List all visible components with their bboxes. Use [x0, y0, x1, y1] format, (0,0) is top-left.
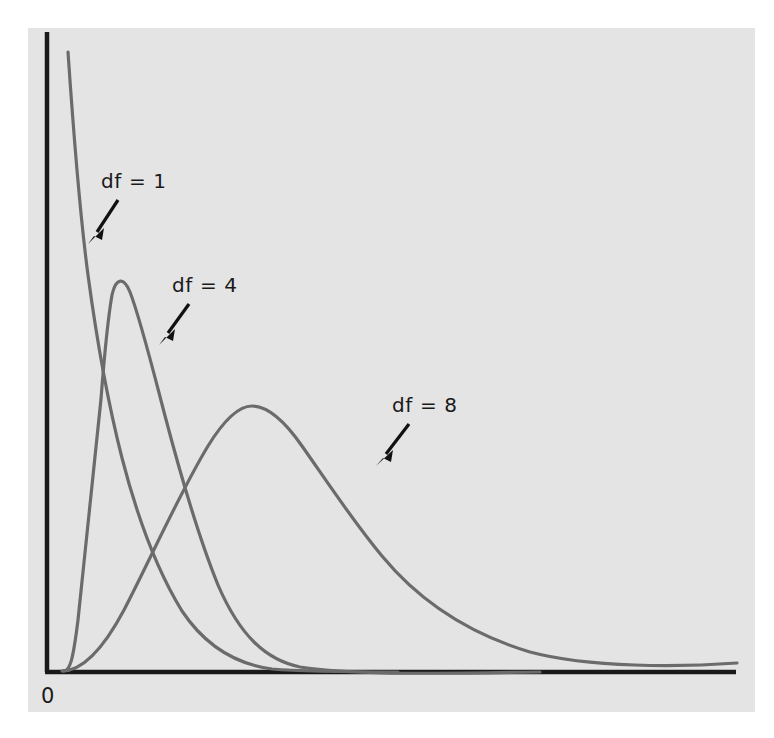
- annotation-df-1-arrow-head: [88, 228, 104, 244]
- annotation-df-1-arrow-shaft: [97, 200, 118, 232]
- annotation-df-4-arrow-shaft: [168, 304, 189, 333]
- annotation-df-1: df = 1: [88, 169, 167, 244]
- annotation-df-8-arrow-shaft: [386, 424, 409, 454]
- curve-df-4: [63, 281, 540, 673]
- annotation-df-8: df = 8: [376, 393, 458, 466]
- annotation-df-8-label: df = 8: [392, 393, 458, 417]
- curve-df-1: [68, 52, 398, 672]
- chi-square-distribution-chart: 0 df = 1 df = 4 df = 8: [0, 0, 774, 738]
- annotation-df-4-arrow-head: [159, 329, 175, 345]
- annotation-df-4: df = 4: [159, 273, 238, 345]
- chart-page: 0 df = 1 df = 4 df = 8: [0, 0, 774, 738]
- curve-df-8: [62, 406, 737, 671]
- annotation-df-1-label: df = 1: [101, 169, 167, 193]
- annotation-df-8-arrow-head: [376, 450, 393, 466]
- annotation-df-4-label: df = 4: [172, 273, 238, 297]
- origin-label: 0: [41, 684, 54, 708]
